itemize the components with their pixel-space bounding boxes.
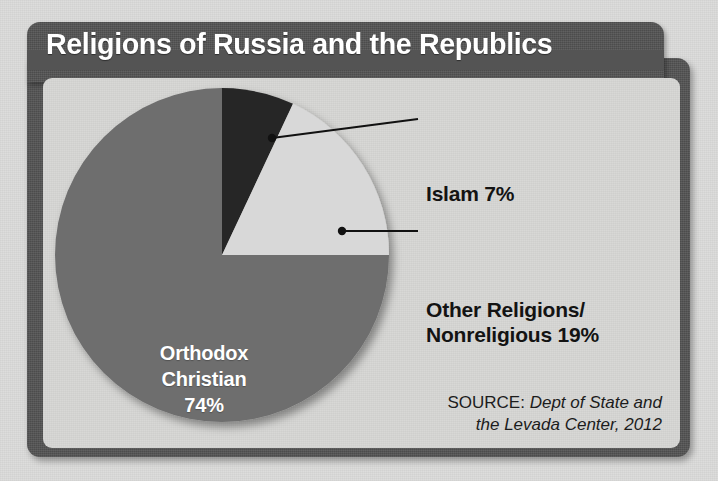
slice-label-orthodox-line2: Christian bbox=[109, 366, 299, 392]
slice-label-orthodox-line3: 74% bbox=[109, 392, 299, 418]
slice-label-islam-text: Islam 7% bbox=[426, 181, 514, 206]
source-line-1: SOURCE: Dept of State and bbox=[447, 392, 662, 414]
source-credit: SOURCE: Dept of State and the Levada Cen… bbox=[447, 392, 662, 436]
slice-label-other: Other Religions/ Nonreligious 19% bbox=[426, 297, 599, 347]
source-body-line2: the Levada Center, 2012 bbox=[447, 414, 662, 436]
page-title: Religions of Russia and the Republics bbox=[46, 26, 638, 62]
slice-label-orthodox-line1: Orthodox bbox=[109, 340, 299, 366]
chart-panel: Islam 7% Other Religions/ Nonreligious 1… bbox=[43, 78, 680, 448]
chart-page: Religions of Russia and the Republics bbox=[0, 0, 718, 481]
source-label: SOURCE: bbox=[447, 393, 524, 412]
slice-label-islam: Islam 7% bbox=[426, 181, 514, 206]
slice-label-orthodox: Orthodox Christian 74% bbox=[109, 340, 299, 418]
slice-label-other-line2: Nonreligious 19% bbox=[426, 322, 599, 347]
slice-label-other-line1: Other Religions/ bbox=[426, 297, 599, 322]
source-body-line1: Dept of State and bbox=[530, 393, 662, 412]
